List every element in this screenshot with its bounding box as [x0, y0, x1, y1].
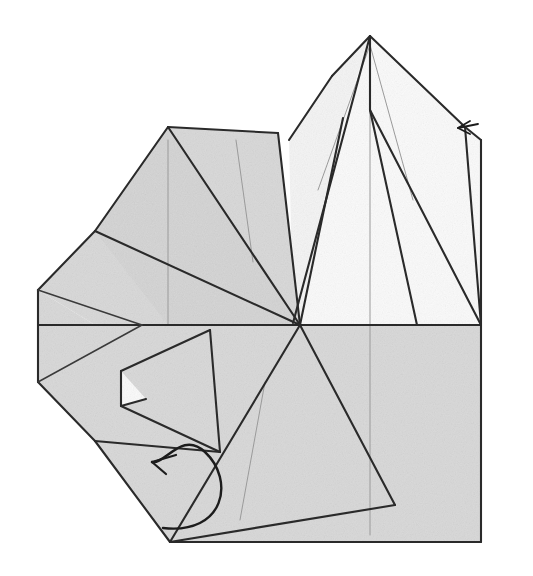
origami-figure — [0, 0, 533, 576]
origami-diagram-root — [0, 0, 533, 576]
paper-panels — [38, 36, 481, 542]
